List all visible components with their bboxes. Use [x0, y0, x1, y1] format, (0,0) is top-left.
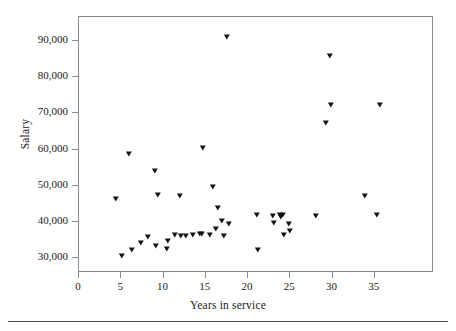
data-point	[113, 196, 119, 201]
data-point	[278, 215, 284, 220]
data-point	[178, 233, 184, 238]
data-point	[145, 234, 151, 239]
x-axis-tick	[78, 272, 79, 278]
data-point	[119, 253, 125, 258]
plot-area	[78, 16, 433, 272]
x-axis-tick-label: 30	[312, 280, 352, 292]
data-point	[219, 218, 225, 223]
y-axis-tick-label: 40,000	[8, 215, 68, 226]
data-point	[165, 238, 171, 243]
data-point	[182, 233, 188, 238]
x-axis-title: Years in service	[0, 299, 456, 311]
x-axis-tick-label: 0	[58, 280, 98, 292]
data-point	[172, 233, 178, 238]
y-axis-tick	[72, 40, 78, 41]
y-axis-tick	[72, 185, 78, 186]
x-axis-tick	[120, 272, 121, 278]
x-axis-tick	[289, 272, 290, 278]
data-point	[287, 228, 293, 233]
data-point	[190, 232, 196, 237]
data-point	[176, 193, 182, 198]
y-axis-tick-label: 70,000	[8, 106, 68, 117]
data-point	[215, 205, 221, 210]
data-point	[226, 222, 232, 227]
y-axis-tick	[72, 221, 78, 222]
data-points-layer	[79, 17, 432, 271]
data-point	[126, 152, 132, 157]
x-axis-tick-label: 20	[227, 280, 267, 292]
y-axis-tick	[72, 257, 78, 258]
x-axis-tick-label: 5	[100, 280, 140, 292]
data-point	[312, 214, 318, 219]
data-point	[361, 193, 367, 198]
data-point	[323, 120, 329, 125]
x-axis-tick	[163, 272, 164, 278]
x-axis-tick	[247, 272, 248, 278]
data-point	[209, 184, 215, 189]
data-point	[198, 232, 204, 237]
y-axis-tick	[72, 76, 78, 77]
y-axis-tick	[72, 112, 78, 113]
data-point	[200, 145, 206, 150]
data-point	[137, 240, 143, 245]
x-axis-tick-label: 35	[354, 280, 394, 292]
footer-divider	[8, 321, 448, 322]
data-point	[224, 34, 230, 39]
data-point	[254, 213, 260, 218]
data-point	[328, 102, 334, 107]
data-point	[279, 213, 285, 218]
data-point	[129, 247, 135, 252]
data-point	[220, 233, 226, 238]
data-point	[154, 192, 160, 197]
data-point	[281, 232, 287, 237]
x-axis-tick	[332, 272, 333, 278]
data-point	[255, 247, 261, 252]
data-point	[270, 213, 276, 218]
y-axis-tick-label: 80,000	[8, 70, 68, 81]
data-point	[271, 220, 277, 225]
x-axis-tick	[205, 272, 206, 278]
data-point	[377, 102, 383, 107]
y-axis-tick	[72, 149, 78, 150]
data-point	[285, 221, 291, 226]
data-point	[213, 226, 219, 231]
data-point	[207, 232, 213, 237]
data-point	[277, 212, 283, 217]
x-axis-tick-label: 25	[269, 280, 309, 292]
data-point	[152, 169, 158, 174]
data-point	[164, 246, 170, 251]
data-point	[197, 232, 203, 237]
data-point	[373, 213, 379, 218]
data-point	[327, 53, 333, 58]
x-axis-tick-label: 15	[185, 280, 225, 292]
data-point	[153, 243, 159, 248]
y-axis-tick-label: 50,000	[8, 179, 68, 190]
y-axis-tick-label: 30,000	[8, 251, 68, 262]
y-axis-title: Salary	[19, 94, 31, 174]
x-axis-tick-label: 10	[143, 280, 183, 292]
x-axis-tick	[374, 272, 375, 278]
y-axis-tick-label: 90,000	[8, 34, 68, 45]
scatter-plot-figure: 30,00040,00050,00060,00070,00080,00090,0…	[0, 0, 456, 331]
y-axis-tick-label: 60,000	[8, 143, 68, 154]
